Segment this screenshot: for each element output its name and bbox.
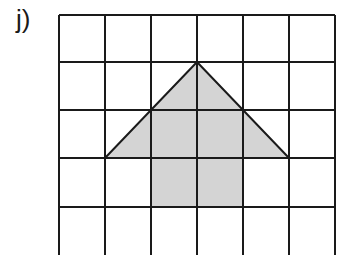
square-grid (59, 15, 335, 255)
grid-figure (0, 0, 346, 255)
